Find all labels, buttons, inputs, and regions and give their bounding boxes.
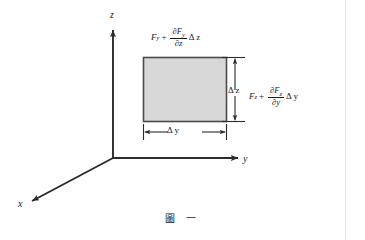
dimension-label-delta-y: Δ y — [167, 126, 179, 135]
force-right-fraction: ∂Fz ∂y — [268, 86, 284, 108]
force-right-numerator-text: ∂F — [270, 85, 279, 95]
force-expression-right: Fz + ∂Fz ∂y Δ y — [249, 86, 298, 108]
force-right-numerator-subscript: z — [280, 90, 283, 97]
force-right-denominator: ∂y — [270, 98, 282, 108]
force-expression-top: Fy + ∂Fy ∂z Δ z — [151, 27, 200, 49]
force-top-operator: + — [159, 33, 168, 42]
force-right-operator: + — [257, 92, 266, 101]
axis-label-z: z — [110, 10, 114, 20]
force-top-denominator: ∂z — [173, 39, 185, 49]
differential-element-box — [144, 58, 227, 122]
axis-label-y: y — [243, 154, 247, 164]
force-right-trailing: Δ y — [286, 92, 298, 101]
axis-label-x: x — [18, 199, 22, 209]
figure-container: z y x Fy + ∂Fy ∂z Δ z Fz + ∂Fz ∂y Δ y Δ … — [0, 0, 365, 240]
force-top-numerator: ∂Fy — [170, 27, 186, 38]
force-top-numerator-text: ∂F — [172, 26, 181, 36]
dimension-label-delta-z: Δ z — [228, 86, 240, 95]
figure-caption: 圖 一 — [0, 210, 365, 225]
force-top-fraction: ∂Fy ∂z — [170, 27, 186, 49]
force-top-numerator-subscript: y — [182, 31, 185, 38]
force-right-numerator: ∂Fz — [268, 86, 284, 97]
force-top-trailing: Δ z — [189, 33, 201, 42]
x-axis-line — [32, 158, 113, 201]
